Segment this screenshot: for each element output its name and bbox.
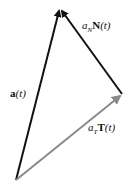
label-aT-rest: (t) [105,121,115,133]
label-aN-rest: (t) [100,19,110,31]
label-a-rest: (t) [16,87,26,99]
vector-diagram: a(t) aNN(t) aTT(t) [0,0,136,188]
vector-aT [16,96,120,180]
label-aN-bold: N [92,19,100,31]
label-aN: aNN(t) [82,20,111,34]
label-aT-bold: T [97,121,104,133]
label-aT: aTT(t) [88,122,115,136]
label-a: a(t) [10,88,26,99]
